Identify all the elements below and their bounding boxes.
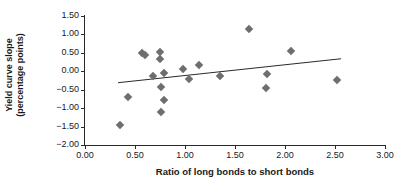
y-tick-label: −1.00 <box>43 103 79 112</box>
y-axis-label-line-2: (percentage points) <box>15 33 26 117</box>
y-tick-label: −0.50 <box>43 85 79 94</box>
y-tick-label: 0.00 <box>43 66 79 75</box>
y-tick-label: −2.00 <box>43 140 79 149</box>
x-tick-label: 2.50 <box>315 151 355 160</box>
x-tick-label: 3.00 <box>365 151 405 160</box>
y-tick-label: 1.00 <box>43 29 79 38</box>
x-tick-mark <box>235 145 236 149</box>
y-tick-label: −1.50 <box>43 122 79 131</box>
x-tick-label: 0.00 <box>65 151 105 160</box>
scatter-chart: Yield curve slope (percentage points) 1.… <box>0 0 405 189</box>
y-tick-label-text: 0.00 <box>47 66 79 75</box>
y-tick-label-text: 1.50 <box>47 11 79 20</box>
x-tick-mark <box>335 145 336 149</box>
y-axis-label: Yield curve slope (percentage points) <box>0 0 30 150</box>
y-tick-label-text: −1.50 <box>47 122 79 131</box>
y-tick-label-text: −0.50 <box>47 85 79 94</box>
x-tick-label: 1.50 <box>215 151 255 160</box>
y-tick-label-text: −1.00 <box>47 103 79 112</box>
y-tick-label-text: 0.50 <box>47 48 79 57</box>
y-tick-label-text: 1.00 <box>47 29 79 38</box>
x-axis-label: Ratio of long bonds to short bonds <box>85 166 385 177</box>
x-tick-mark <box>385 145 386 149</box>
x-tick-mark <box>185 145 186 149</box>
x-tick-label: 1.00 <box>165 151 205 160</box>
x-tick-mark <box>285 145 286 149</box>
x-tick-label: 2.00 <box>265 151 305 160</box>
plot-area <box>85 16 385 145</box>
x-tick-label: 0.50 <box>115 151 155 160</box>
y-tick-label-text: −2.00 <box>47 140 79 149</box>
x-tick-mark <box>85 145 86 149</box>
x-tick-mark <box>135 145 136 149</box>
y-tick-label: 1.50 <box>43 11 79 20</box>
y-axis-label-line-1: Yield curve slope <box>4 33 15 117</box>
y-tick-label: 0.50 <box>43 48 79 57</box>
